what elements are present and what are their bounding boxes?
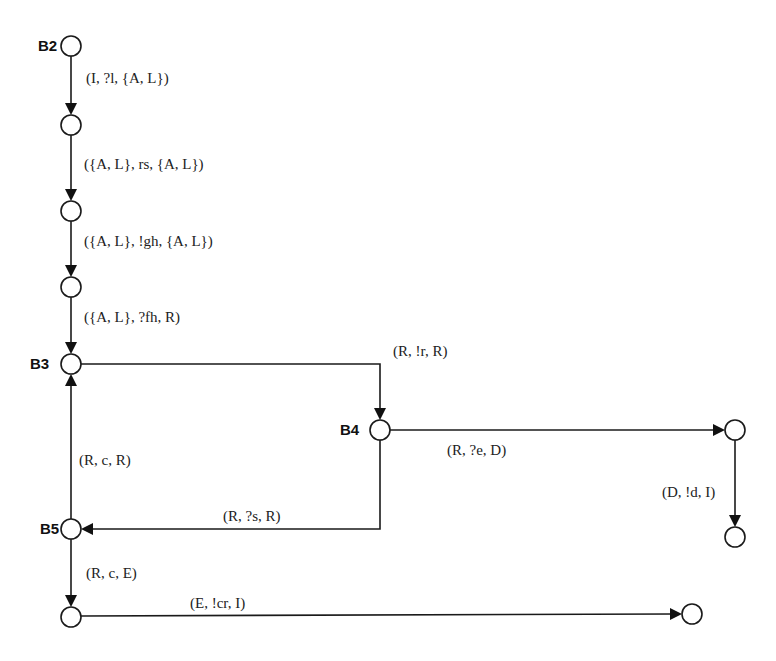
edge-label-b4-n4: (R, ?e, D): [447, 442, 506, 459]
edge-n4-to-n5: [729, 440, 741, 527]
state-diagram: B2 B3 B4 B5 (I, ?l, {A, L}) ({A, L}, rs,…: [0, 0, 776, 661]
state-node-b2: [61, 36, 81, 56]
edge-b3-to-b4: [81, 364, 386, 420]
arrowhead-right-icon: [670, 608, 682, 620]
arrowhead-down-icon: [729, 515, 741, 527]
edge-label-b3-b4: (R, !r, R): [393, 343, 447, 360]
edge-n6-to-n7: [81, 608, 682, 620]
node-label-b2: B2: [38, 37, 57, 54]
state-node-b4: [370, 420, 390, 440]
edge-b5-to-b3: [65, 374, 77, 519]
edge-label-n4-n5: (D, !d, I): [662, 484, 715, 501]
edge-label-b4-b5: (R, ?s, R): [223, 508, 281, 525]
state-node-7: [682, 604, 702, 624]
edge-b5-to-n6: [65, 539, 77, 607]
arrowhead-right-icon: [713, 424, 725, 436]
state-node-2: [61, 201, 81, 221]
edge-label-n1-n2: ({A, L}, rs, {A, L}): [84, 156, 204, 173]
edge-label-b5-n6: (R, c, E): [86, 565, 137, 582]
edge-label-b5-b3: (R, c, R): [79, 452, 131, 469]
edge-label-n6-n7: (E, !cr, I): [190, 595, 245, 612]
arrowhead-up-icon: [65, 374, 77, 386]
state-node-3: [61, 277, 81, 297]
arrowhead-down-icon: [65, 103, 77, 115]
state-node-4: [725, 420, 745, 440]
arrowhead-down-icon: [65, 189, 77, 201]
state-node-b5: [61, 519, 81, 539]
edge-n2-to-n3: [65, 221, 77, 277]
state-node-5: [725, 527, 745, 547]
edge-b4-to-n4: [390, 424, 725, 436]
arrowhead-down-icon: [65, 265, 77, 277]
state-node-6: [61, 607, 81, 627]
arrowhead-down-icon: [374, 408, 386, 420]
edge-label-n3-b3: ({A, L}, ?fh, R): [84, 309, 180, 326]
edge-label-b2-n1: (I, ?l, {A, L}): [86, 70, 169, 87]
state-node-1: [61, 115, 81, 135]
node-label-b3: B3: [30, 355, 49, 372]
node-label-b5: B5: [40, 520, 59, 537]
arrowhead-down-icon: [65, 595, 77, 607]
arrowhead-down-icon: [65, 342, 77, 354]
edge-n3-to-b3: [65, 297, 77, 354]
edge-label-n2-n3: ({A, L}, !gh, {A, L}): [84, 233, 213, 250]
state-node-b3: [61, 354, 81, 374]
edge-b2-to-n1: [65, 56, 77, 115]
node-label-b4: B4: [340, 421, 360, 438]
edge-n1-to-n2: [65, 135, 77, 201]
arrowhead-left-icon: [81, 523, 93, 535]
